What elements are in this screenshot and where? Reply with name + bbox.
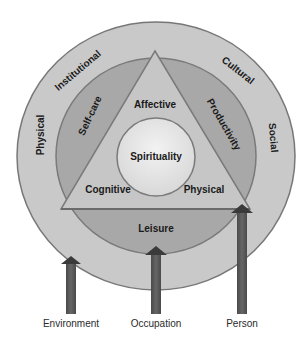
arrow-label-person: Person <box>226 318 258 329</box>
arrow-label-environment: Environment <box>43 318 99 329</box>
occ-label-leisure: Leisure <box>138 223 174 234</box>
pe-o-diagram: Physical Institutional Cultural Social S… <box>0 0 308 350</box>
person-label-affective: Affective <box>134 99 177 110</box>
person-label-cognitive: Cognitive <box>85 184 131 195</box>
env-label-physical: Physical <box>35 114 46 155</box>
arrow-label-occupation: Occupation <box>131 318 182 329</box>
person-label-physical: Physical <box>184 184 225 195</box>
core-label-spirituality: Spirituality <box>130 151 182 162</box>
